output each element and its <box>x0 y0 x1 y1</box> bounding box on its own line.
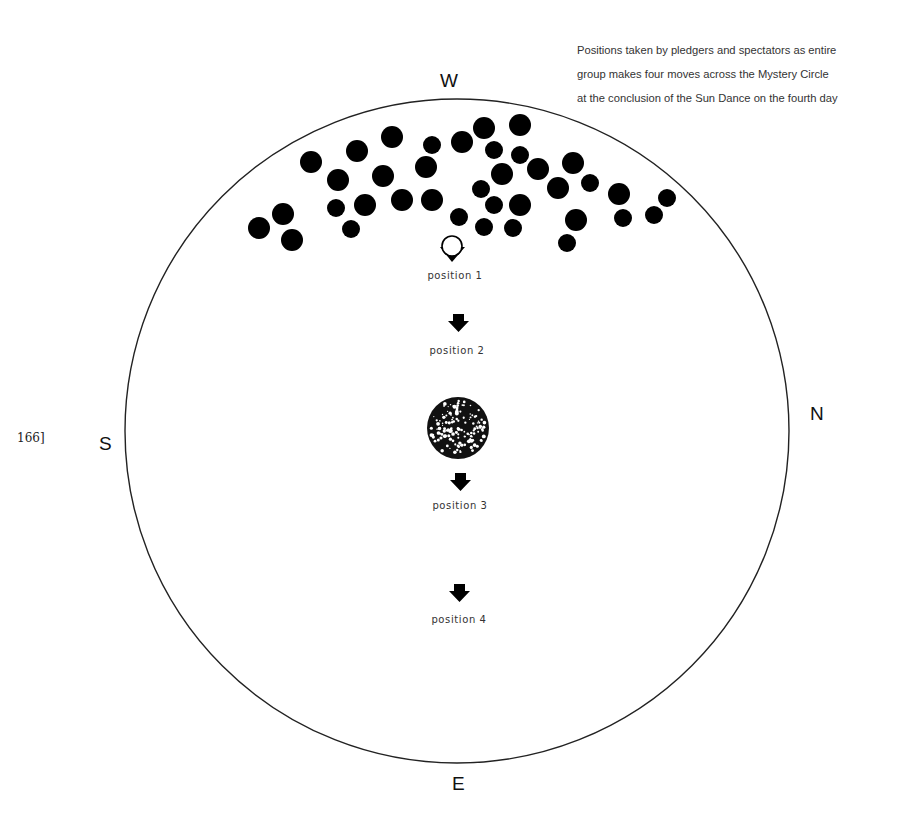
person-dot <box>658 189 676 207</box>
circle-with-arrow-icon <box>440 236 465 262</box>
mystery-circle-diagram <box>0 0 898 840</box>
position-4-label: position 4 <box>399 614 519 625</box>
down-arrow-icon <box>449 584 470 602</box>
group-of-people <box>248 114 676 252</box>
person-dot <box>511 146 529 164</box>
person-dot <box>645 206 663 224</box>
person-dot <box>547 177 569 199</box>
person-dot <box>558 234 576 252</box>
person-dot <box>509 194 531 216</box>
caption-line: group makes four moves across the Myster… <box>577 62 897 86</box>
person-dot <box>608 183 630 205</box>
caption-line: Positions taken by pledgers and spectato… <box>577 38 897 62</box>
person-dot <box>485 141 503 159</box>
compass-east: E <box>452 773 465 795</box>
person-dot <box>504 219 522 237</box>
person-dot <box>472 180 490 198</box>
person-dot <box>485 196 503 214</box>
person-dot <box>354 194 376 216</box>
person-dot <box>415 156 437 178</box>
person-dot <box>527 158 549 180</box>
person-dot <box>421 189 443 211</box>
person-dot <box>346 140 368 162</box>
position-1-label: position 1 <box>395 270 515 281</box>
down-arrow-icon <box>450 473 471 491</box>
person-dot <box>281 229 303 251</box>
person-dot <box>581 174 599 192</box>
page-number: 166] <box>17 431 45 445</box>
compass-west: W <box>440 70 458 92</box>
person-dot <box>451 131 473 153</box>
person-dot <box>473 117 495 139</box>
person-dot <box>342 220 360 238</box>
person-dot <box>509 114 531 136</box>
person-dot <box>391 189 413 211</box>
person-dot <box>327 169 349 191</box>
person-dot <box>272 203 294 225</box>
person-dot <box>565 209 587 231</box>
person-dot <box>300 151 322 173</box>
person-dot <box>423 136 441 154</box>
position-3-label: position 3 <box>400 500 520 511</box>
tree-bush-icon <box>427 397 489 459</box>
person-dot <box>327 199 345 217</box>
down-arrow-icon <box>448 314 469 332</box>
person-dot <box>614 209 632 227</box>
person-dot <box>248 217 270 239</box>
person-dot <box>562 152 584 174</box>
person-dot <box>475 218 493 236</box>
figure-caption: Positions taken by pledgers and spectato… <box>577 38 897 110</box>
caption-line: at the conclusion of the Sun Dance on th… <box>577 86 897 110</box>
compass-south: S <box>99 433 112 455</box>
person-dot <box>372 165 394 187</box>
compass-north: N <box>810 403 824 425</box>
person-dot <box>491 163 513 185</box>
person-dot <box>381 126 403 148</box>
position-2-label: position 2 <box>397 345 517 356</box>
person-dot <box>450 208 468 226</box>
